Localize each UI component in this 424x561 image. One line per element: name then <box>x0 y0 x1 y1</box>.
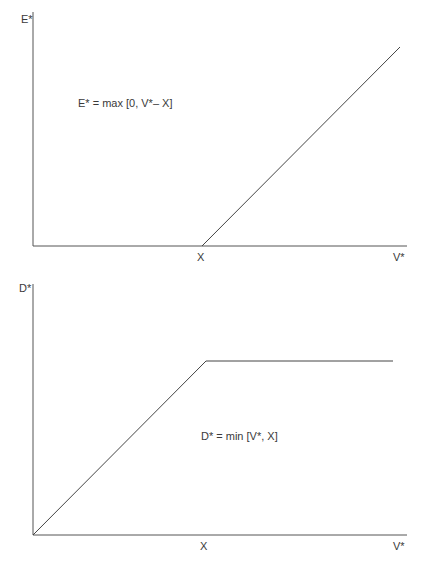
bottom-payoff-line <box>33 361 393 535</box>
bottom-y-axis-label: D* <box>19 283 31 294</box>
bottom-x-axis-label: V* <box>393 541 405 552</box>
top-x-axis-label: V* <box>393 252 405 263</box>
top-formula: E* = max [0, V*– X] <box>78 98 172 109</box>
bottom-formula: D* = min [V*, X] <box>201 431 278 442</box>
bottom-x-tick-label: X <box>200 541 207 552</box>
figure-canvas <box>0 0 424 561</box>
top-x-tick-label: X <box>197 252 204 263</box>
top-payoff-line <box>202 47 400 246</box>
top-y-axis-label: E* <box>21 14 33 25</box>
